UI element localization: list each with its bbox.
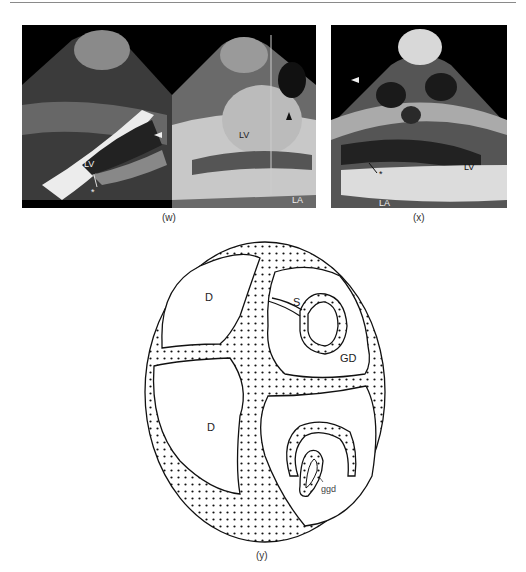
caption-w: (w) bbox=[162, 212, 176, 223]
echo-image-x: LV * LA bbox=[331, 25, 507, 208]
label-asterisk: * bbox=[379, 169, 383, 179]
label-lv: LV bbox=[84, 159, 94, 169]
arrow-icon bbox=[351, 77, 359, 83]
label-lv-right: LV bbox=[239, 130, 249, 140]
caption-x: (x) bbox=[413, 212, 425, 223]
schematic-diagram-y: D D S GD ggd bbox=[140, 236, 392, 548]
label-d-upper: D bbox=[205, 291, 213, 303]
label-la: LA bbox=[379, 198, 390, 208]
label-gd: GD bbox=[340, 352, 357, 364]
caption-y: (y) bbox=[256, 550, 268, 561]
label-asterisk: * bbox=[91, 187, 95, 197]
echo-panel-w: LV * LV LA bbox=[22, 25, 316, 208]
label-d-lower: D bbox=[207, 421, 215, 433]
echo-image-w: LV * LV LA bbox=[22, 25, 316, 208]
label-la: LA bbox=[292, 195, 303, 205]
top-rule bbox=[10, 2, 516, 3]
label-ggd: ggd bbox=[321, 484, 336, 494]
label-lv: LV bbox=[464, 162, 474, 172]
echo-panel-x: LV * LA bbox=[331, 25, 507, 208]
label-s: S bbox=[293, 296, 300, 308]
